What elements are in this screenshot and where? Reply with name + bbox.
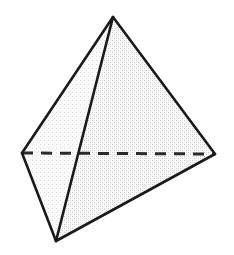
tetrahedron-figure (0, 0, 234, 255)
figure-canvas (0, 0, 234, 255)
